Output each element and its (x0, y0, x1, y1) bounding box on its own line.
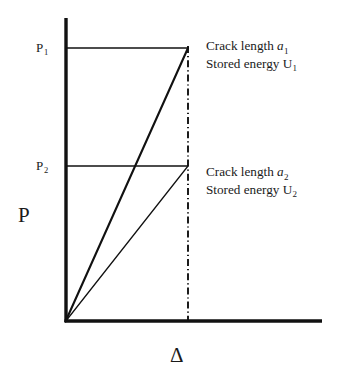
annotation-curve-1-stored-energy-text: Stored energy (206, 56, 279, 71)
annotation-curve-2-crack-length-text: Crack length (206, 164, 274, 179)
tick-label-p2-subscript: 2 (44, 165, 48, 175)
annotation-curve-1-crack-length-text: Crack length (206, 38, 274, 53)
annotation-curve-1: Crack length a1 Stored energy U1 (206, 38, 297, 73)
annotation-curve-1-crack-length: Crack length a1 (206, 38, 297, 56)
loading-line-a1 (66, 48, 189, 322)
annotation-curve-2: Crack length a2 Stored energy U2 (206, 164, 297, 199)
annotation-curve-2-stored-energy-text: Stored energy (206, 182, 279, 197)
annotation-curve-1-stored-energy-subscript: 1 (293, 63, 298, 73)
annotation-curve-2-stored-energy-subscript: 2 (293, 189, 298, 199)
tick-label-p2-symbol: P (36, 158, 43, 173)
x-axis-label: Δ (170, 345, 184, 366)
annotation-curve-1-crack-length-subscript: 1 (284, 46, 289, 56)
annotation-curve-2-crack-length: Crack length a2 (206, 164, 297, 182)
annotation-curve-1-stored-energy-symbol: U (283, 56, 293, 71)
annotation-curve-2-stored-energy: Stored energy U2 (206, 182, 297, 200)
tick-label-p1: P1 (36, 41, 48, 54)
y-axis-label: P (18, 205, 30, 226)
loading-line-a2 (66, 166, 189, 322)
tick-label-p2: P2 (36, 159, 48, 172)
annotation-curve-2-crack-length-subscript: 2 (284, 172, 289, 182)
annotation-curve-2-crack-length-symbol: a (277, 164, 284, 179)
annotation-curve-2-stored-energy-symbol: U (283, 182, 293, 197)
tick-label-p1-subscript: 1 (44, 47, 48, 57)
annotation-curve-1-crack-length-symbol: a (277, 38, 284, 53)
load-displacement-diagram: P1 P2 P Δ Crack length a1 Stored energy … (0, 0, 349, 379)
tick-label-p1-symbol: P (36, 40, 43, 55)
annotation-curve-1-stored-energy: Stored energy U1 (206, 56, 297, 74)
